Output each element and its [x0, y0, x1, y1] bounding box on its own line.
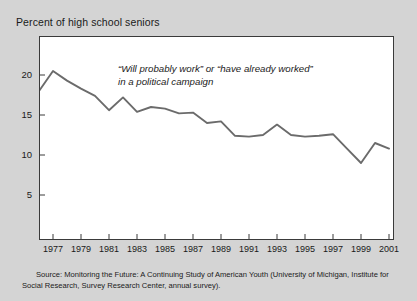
annotation-line-1: “Will probably work” or “have already wo…	[118, 62, 313, 75]
x-axis-tick-label: 1987	[178, 244, 208, 254]
x-axis-tick-label: 1979	[66, 244, 96, 254]
x-axis-tick-label: 2001	[374, 244, 404, 254]
x-axis-tick-label: 1995	[290, 244, 320, 254]
y-axis-tick-label: 15	[10, 109, 32, 120]
chart-figure: Percent of high school seniors 5101520 1…	[0, 0, 417, 301]
y-axis-tick-label: 5	[10, 189, 32, 200]
annotation-line-2: in a political campaign	[118, 75, 313, 88]
x-axis-tick-label: 1991	[234, 244, 264, 254]
chart-annotation: “Will probably work” or “have already wo…	[118, 62, 313, 88]
x-axis-tick-label: 1981	[94, 244, 124, 254]
y-axis-tick-label: 20	[10, 69, 32, 80]
x-axis-tick-label: 1997	[318, 244, 348, 254]
x-axis-tick-label: 1983	[122, 244, 152, 254]
x-axis-tick-label: 1985	[150, 244, 180, 254]
page-title: Percent of high school seniors	[16, 16, 160, 28]
x-axis-tick-label: 1999	[346, 244, 376, 254]
source-text: Source: Monitoring the Future: A Continu…	[22, 270, 389, 290]
x-axis-tick-label: 1989	[206, 244, 236, 254]
x-axis-tick-label: 1993	[262, 244, 292, 254]
x-axis-tick-label: 1977	[38, 244, 68, 254]
y-axis-tick-label: 10	[10, 149, 32, 160]
source-note: Source: Monitoring the Future: A Continu…	[22, 270, 406, 291]
